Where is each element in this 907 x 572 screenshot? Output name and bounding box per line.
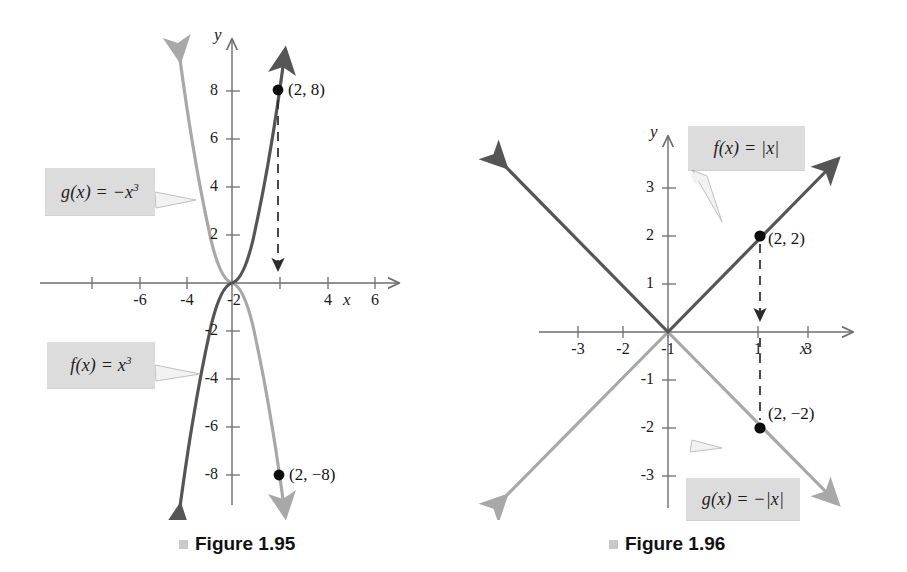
y-tick-8: 8 bbox=[192, 81, 218, 99]
y-tick--8: -8 bbox=[186, 465, 218, 483]
point-2-8 bbox=[273, 85, 284, 96]
figure-caption-1-95: Figure 1.95 bbox=[179, 533, 295, 555]
point-label-2-8: (2, 8) bbox=[288, 80, 325, 100]
callout-f-function: f(x) = |x| bbox=[688, 126, 805, 170]
y-tick--2: -2 bbox=[622, 418, 654, 436]
caption-bullet-icon bbox=[179, 540, 188, 549]
x-axis bbox=[40, 277, 398, 289]
point-label-2-neg8: (2, −8) bbox=[289, 465, 335, 485]
point-2-neg8 bbox=[274, 470, 285, 481]
x-tick--2: -2 bbox=[605, 340, 641, 358]
y-axis bbox=[662, 137, 676, 508]
caption-text: Figure 1.95 bbox=[195, 533, 295, 555]
y-axis bbox=[226, 40, 240, 505]
caption-bullet-icon bbox=[609, 540, 618, 549]
x-axis-label: x bbox=[343, 290, 351, 310]
y-tick-2: 2 bbox=[192, 225, 218, 243]
x-tick--3: -3 bbox=[560, 340, 596, 358]
callout-g-function: g(x) = −x3 bbox=[45, 168, 155, 215]
figure-panel-1-96: x y -3 -2 -1 1 3 3 2 1 -1 -2 -3 (2, 2) (… bbox=[454, 0, 907, 572]
y-tick--6: -6 bbox=[186, 417, 218, 435]
point-2-2 bbox=[754, 230, 765, 241]
point-label-2-neg2: (2, −2) bbox=[768, 404, 814, 424]
y-tick-2: 2 bbox=[628, 226, 654, 244]
leader-g-label bbox=[155, 192, 196, 208]
y-tick-6: 6 bbox=[192, 129, 218, 147]
x-tick-3: 3 bbox=[792, 340, 824, 358]
callout-f-text: f(x) = |x| bbox=[713, 138, 779, 159]
y-tick--4: -4 bbox=[186, 369, 218, 387]
callout-f-function: f(x) = x3 bbox=[47, 342, 155, 388]
x-tick--6: -6 bbox=[122, 291, 158, 309]
y-axis-label: y bbox=[650, 122, 658, 142]
caption-text: Figure 1.96 bbox=[625, 533, 725, 555]
x-tick-4: 4 bbox=[312, 291, 344, 309]
plot-cubic-reflection bbox=[0, 0, 454, 520]
plot-absolute-value-reflection bbox=[454, 0, 907, 520]
x-tick--2: -2 bbox=[216, 291, 252, 309]
callout-g-text: g(x) = −x3 bbox=[61, 181, 139, 203]
y-tick-1: 1 bbox=[628, 274, 654, 292]
y-tick--1: -1 bbox=[622, 370, 654, 388]
x-tick-6: 6 bbox=[359, 291, 391, 309]
callout-g-text: g(x) = −|x| bbox=[702, 489, 784, 510]
x-tick-1: 1 bbox=[742, 340, 774, 358]
callout-g-function: g(x) = −|x| bbox=[686, 478, 800, 520]
y-axis-label: y bbox=[214, 25, 222, 45]
x-tick--4: -4 bbox=[169, 291, 205, 309]
y-tick--2: -2 bbox=[186, 321, 218, 339]
point-2-neg2 bbox=[754, 422, 765, 433]
x-axis bbox=[539, 326, 852, 338]
y-tick-4: 4 bbox=[192, 177, 218, 195]
figure-panel-1-95: x y -6 -4 -2 4 6 8 6 4 2 -2 -4 -6 -8 (2,… bbox=[0, 0, 454, 572]
figure-caption-1-96: Figure 1.96 bbox=[609, 533, 725, 555]
x-tick--1: -1 bbox=[650, 340, 686, 358]
callout-f-text: f(x) = x3 bbox=[70, 354, 131, 376]
y-tick--3: -3 bbox=[622, 466, 654, 484]
y-tick-3: 3 bbox=[628, 178, 654, 196]
point-label-2-2: (2, 2) bbox=[768, 229, 805, 249]
